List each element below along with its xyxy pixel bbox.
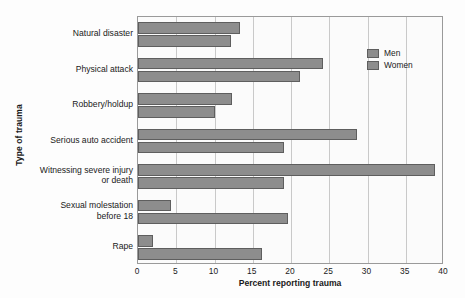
x-tick-label: 10: [199, 266, 229, 276]
bar: [138, 22, 240, 34]
x-tick-label: 5: [160, 266, 190, 276]
bar: [138, 235, 153, 247]
bar: [138, 177, 284, 189]
bar: [138, 106, 215, 118]
category-label: Rape: [22, 241, 133, 252]
category-label: Serious auto accident: [22, 135, 133, 146]
bar: [138, 129, 357, 141]
legend-swatch-icon: [367, 61, 379, 70]
legend-label: Women: [384, 60, 413, 70]
bar: [138, 164, 435, 176]
category-label: Robbery/holdup: [22, 99, 133, 110]
bar: [138, 58, 323, 70]
bar: [138, 71, 300, 83]
x-tick-label: 40: [428, 266, 458, 276]
y-axis-category-labels: Natural disasterPhysical attackRobbery/h…: [22, 16, 133, 264]
bar: [138, 213, 288, 225]
legend-swatch-icon: [367, 49, 379, 58]
legend-item: Women: [367, 59, 413, 71]
legend-item: Men: [367, 47, 413, 59]
legend-label: Men: [384, 48, 400, 58]
x-axis-title: Percent reporting trauma: [137, 278, 443, 288]
chart-legend: MenWomen: [364, 45, 416, 73]
bar: [138, 93, 232, 105]
x-tick-label: 20: [275, 266, 305, 276]
category-label: Witnessing severe injury or death: [22, 165, 133, 186]
x-tick-label: 15: [237, 266, 267, 276]
x-tick-label: 30: [352, 266, 382, 276]
category-label: Physical attack: [22, 64, 133, 75]
bar: [138, 142, 284, 154]
x-tick-label: 0: [122, 266, 152, 276]
bar: [138, 35, 231, 47]
category-label: Natural disaster: [22, 28, 133, 39]
bar-chart-figure: Type of trauma Natural disasterPhysical …: [0, 0, 465, 298]
category-label: Sexual molestation before 18: [22, 200, 133, 221]
bar: [138, 200, 171, 212]
x-tick-label: 35: [390, 266, 420, 276]
bar: [138, 248, 262, 260]
x-tick-label: 25: [313, 266, 343, 276]
